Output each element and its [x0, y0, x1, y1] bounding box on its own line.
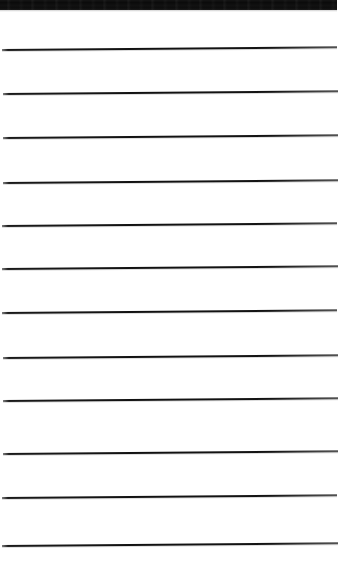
rule-line: [3, 179, 338, 184]
rule-line: [3, 90, 338, 95]
rule-line: [2, 46, 337, 51]
scanned-notepad-page: [0, 0, 344, 576]
rule-line: [3, 450, 338, 455]
rule-line: [3, 397, 338, 402]
ruled-lines-group: [0, 0, 344, 576]
rule-line: [2, 494, 337, 499]
rule-line: [2, 542, 338, 547]
rule-line: [3, 134, 338, 139]
rule-line: [2, 222, 337, 227]
rule-line: [2, 265, 338, 270]
rule-line: [2, 309, 337, 314]
rule-line: [3, 354, 338, 359]
